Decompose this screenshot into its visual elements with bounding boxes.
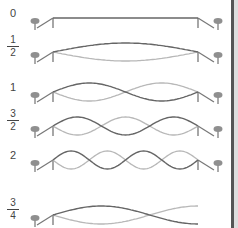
fraction-denominator: 2	[7, 121, 19, 132]
fraction-denominator: 4	[7, 210, 19, 221]
mode-label: 2	[7, 150, 19, 161]
wave-primary	[53, 117, 198, 135]
fraction-numerator: 3	[7, 198, 19, 210]
left-tie-string	[37, 160, 53, 170]
mode-label-fraction: 32	[7, 109, 19, 132]
left-tie-string	[37, 215, 53, 225]
fraction-denominator: 2	[7, 47, 19, 58]
mode-label: 0	[7, 8, 19, 19]
standing-waves-diagram	[0, 0, 238, 228]
fraction-numerator: 3	[7, 109, 19, 121]
wave-primary	[53, 151, 198, 169]
wave-secondary	[53, 52, 198, 61]
wave-primary	[53, 83, 198, 101]
right-tie-string	[198, 126, 214, 136]
wave-primary	[53, 43, 198, 52]
left-tie-string	[37, 92, 53, 102]
wave-secondary	[53, 117, 198, 135]
mode-label: 1	[7, 82, 19, 93]
right-tie-string	[198, 92, 214, 102]
left-tie-string	[37, 18, 53, 28]
mode-label-fraction: 12	[7, 35, 19, 58]
fraction-numerator: 1	[7, 35, 19, 47]
right-tie-string	[198, 160, 214, 170]
left-tie-string	[37, 52, 53, 62]
right-tie-string	[198, 18, 214, 28]
page-edge-shadow	[234, 0, 238, 228]
left-tie-string	[37, 126, 53, 136]
right-tie-string	[198, 52, 214, 62]
mode-label-fraction: 34	[7, 198, 19, 221]
